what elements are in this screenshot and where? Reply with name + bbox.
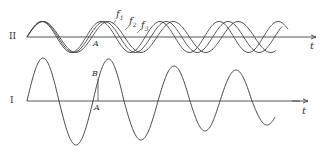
- bottom-wave: [27, 58, 275, 145]
- point-b: B: [92, 70, 98, 78]
- point-a-top: A: [93, 40, 99, 48]
- oscillation-diagram: [0, 0, 325, 155]
- panel-label-II: II: [9, 32, 16, 41]
- f2-subscript: 2: [133, 21, 137, 28]
- f2-label: f2: [129, 16, 137, 28]
- panel-label-I: I: [10, 96, 14, 105]
- t-label-top: t: [310, 41, 314, 51]
- point-a-bottom: A: [94, 104, 100, 112]
- f3-label: f3: [141, 20, 149, 32]
- f1-label: f1: [116, 9, 124, 21]
- f1-subscript: 1: [120, 14, 124, 21]
- t-label-bottom: t: [302, 106, 306, 116]
- f3-subscript: 3: [145, 25, 149, 32]
